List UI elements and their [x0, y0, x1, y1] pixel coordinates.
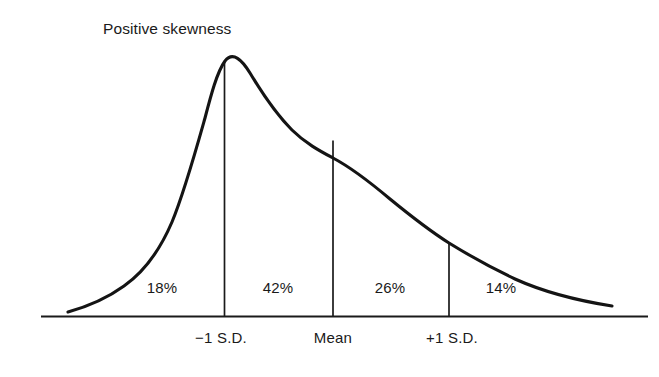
axis-label-plus-one-sd: +1 S.D. [426, 330, 478, 345]
distribution-plot [0, 0, 659, 377]
positive-skewness-figure: Positive skewness 18% 42% 26% 14% −1 S.D… [0, 0, 659, 377]
chart-title: Positive skewness [103, 21, 231, 37]
percent-label-region-1: 18% [147, 280, 178, 295]
axis-label-mean: Mean [314, 330, 352, 345]
skewed-distribution-curve [68, 57, 612, 312]
percent-label-region-4: 14% [486, 280, 517, 295]
percent-label-region-2: 42% [263, 280, 294, 295]
percent-label-region-3: 26% [375, 280, 406, 295]
axis-label-minus-one-sd: −1 S.D. [195, 330, 247, 345]
